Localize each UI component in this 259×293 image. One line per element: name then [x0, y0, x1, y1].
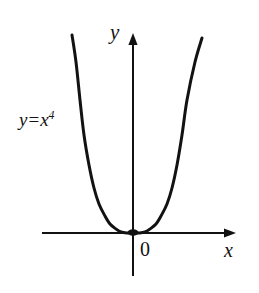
- plot-canvas: [0, 0, 259, 293]
- equation-base: x: [40, 109, 48, 130]
- equation-operator: =: [27, 109, 40, 130]
- equation-exponent: 4: [49, 109, 55, 122]
- origin-label: 0: [140, 239, 150, 259]
- y-axis-arrowhead: [128, 33, 137, 45]
- function-graph-figure: y=x4 y x 0: [0, 0, 259, 293]
- quartic-curve-path: [72, 35, 202, 233]
- y-axis-label: y: [110, 22, 119, 43]
- curve-vertex-marker: [128, 229, 139, 235]
- curve-equation-label: y=x4: [19, 110, 54, 129]
- x-axis-arrowhead: [224, 228, 236, 237]
- x-axis-label: x: [224, 240, 233, 260]
